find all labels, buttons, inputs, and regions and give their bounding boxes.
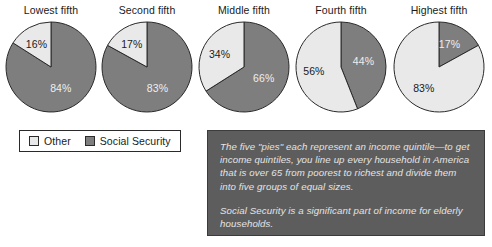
- pie-chart-row: Lowest fifth84%16%Second fifth83%17%Midd…: [0, 0, 492, 128]
- pie-value-label-5-other: 83%: [413, 83, 434, 94]
- pie-title-1: Lowest fifth: [2, 4, 100, 18]
- pie-chart-1: Lowest fifth84%16%: [2, 0, 100, 128]
- pie-title-5: Highest fifth: [390, 4, 488, 18]
- chart-legend: Other Social Security: [19, 130, 181, 152]
- pie-chart-3: Middle fifth66%34%: [195, 0, 293, 128]
- pie-chart-2: Second fifth83%17%: [98, 0, 196, 128]
- pie-value-label-3-other: 34%: [209, 49, 230, 60]
- note-paragraph-1: The five "pies" each represent an income…: [220, 140, 472, 193]
- legend-swatch-other: [29, 136, 39, 146]
- pie-value-label-5-social-security: 17%: [439, 39, 460, 50]
- pie-title-2: Second fifth: [98, 4, 196, 18]
- pie-chart-4: Fourth fifth44%56%: [292, 0, 390, 128]
- pie-graphic-2: 83%17%: [101, 21, 193, 113]
- pie-value-label-1-other: 16%: [26, 39, 47, 50]
- pie-value-label-1-social-security: 84%: [50, 83, 71, 94]
- pie-value-label-4-other: 56%: [303, 66, 324, 77]
- pie-title-4: Fourth fifth: [292, 4, 390, 18]
- explanatory-note-box: The five "pies" each represent an income…: [207, 130, 485, 236]
- pie-title-3: Middle fifth: [195, 4, 293, 18]
- pie-value-label-3-social-security: 66%: [253, 73, 274, 84]
- pie-value-label-2-other: 17%: [121, 39, 142, 50]
- infographic-canvas: Lowest fifth84%16%Second fifth83%17%Midd…: [0, 0, 492, 247]
- pie-graphic-1: 84%16%: [5, 21, 97, 113]
- pie-value-label-4-social-security: 44%: [353, 56, 374, 67]
- legend-label-other: Other: [44, 135, 71, 147]
- pie-graphic-3: 66%34%: [198, 21, 290, 113]
- note-paragraph-2: Social Security is a significant part of…: [220, 204, 472, 230]
- pie-value-label-2-social-security: 83%: [147, 83, 168, 94]
- pie-graphic-5: 17%83%: [393, 21, 485, 113]
- pie-graphic-4: 44%56%: [295, 21, 387, 113]
- legend-swatch-social-security: [85, 136, 95, 146]
- legend-label-social-security: Social Security: [100, 135, 171, 147]
- pie-chart-5: Highest fifth17%83%: [390, 0, 488, 128]
- legend-item-social-security: Social Security: [85, 135, 171, 147]
- legend-item-other: Other: [29, 135, 71, 147]
